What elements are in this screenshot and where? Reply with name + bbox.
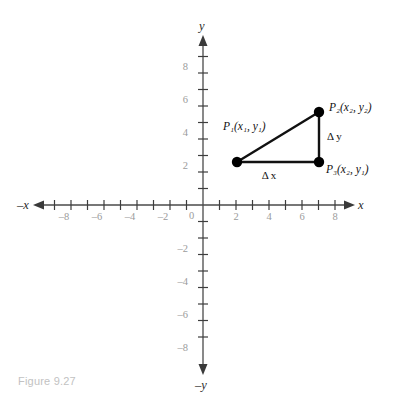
vertex-dot-p2 [314, 107, 324, 117]
y-axis-negative-arrow [199, 364, 208, 375]
x-axis-negative-label: –x [17, 198, 29, 213]
point-label-p1: P₁(x₁, y₁) [223, 120, 266, 132]
y-tick-label-4: 4 [183, 127, 188, 138]
y-axis-positive-label: y [199, 19, 205, 34]
y-tick-label-neg2: –2 [178, 243, 189, 254]
vertex-dot-p3 [314, 157, 324, 167]
x-tick-label-neg8: –8 [59, 211, 70, 222]
vertex-dot-p1 [232, 157, 242, 167]
y-tick-label-2: 2 [183, 160, 188, 171]
point-label-p3: P₃(x₂, y₁) [326, 163, 369, 175]
x-tick-label-4: 4 [266, 211, 271, 222]
origin-tick-label: 0 [189, 210, 194, 221]
x-tick-label-neg6: –6 [92, 211, 103, 222]
delta-x-label: Δ x [262, 169, 277, 181]
x-axis-positive-label: x [358, 198, 364, 213]
y-axis-negative-label: –y [195, 378, 207, 393]
figure-caption: Figure 9.27 [18, 375, 76, 387]
x-axis-positive-arrow [344, 201, 355, 210]
figure-container: x –x y –y 0 –8 –6 –4 –2 2 4 6 8 8 6 4 2 … [0, 0, 395, 406]
y-tick-label-6: 6 [183, 94, 188, 105]
y-tick-label-neg6: –6 [178, 309, 189, 320]
y-axis-positive-arrow [199, 35, 208, 46]
x-tick-label-8: 8 [332, 211, 337, 222]
point-label-p2: P₂(x₂, y₂) [329, 101, 372, 113]
x-tick-label-neg4: –4 [125, 211, 136, 222]
delta-y-label: Δ y [327, 130, 342, 142]
x-tick-label-6: 6 [299, 211, 304, 222]
y-tick-label-neg8: –8 [178, 342, 189, 353]
x-tick-label-2: 2 [233, 211, 238, 222]
y-tick-label-8: 8 [183, 61, 188, 72]
x-tick-label-neg2: –2 [158, 211, 169, 222]
x-axis-negative-arrow [33, 201, 44, 210]
coordinate-plane-svg [0, 0, 395, 406]
y-tick-label-neg4: –4 [178, 276, 189, 287]
